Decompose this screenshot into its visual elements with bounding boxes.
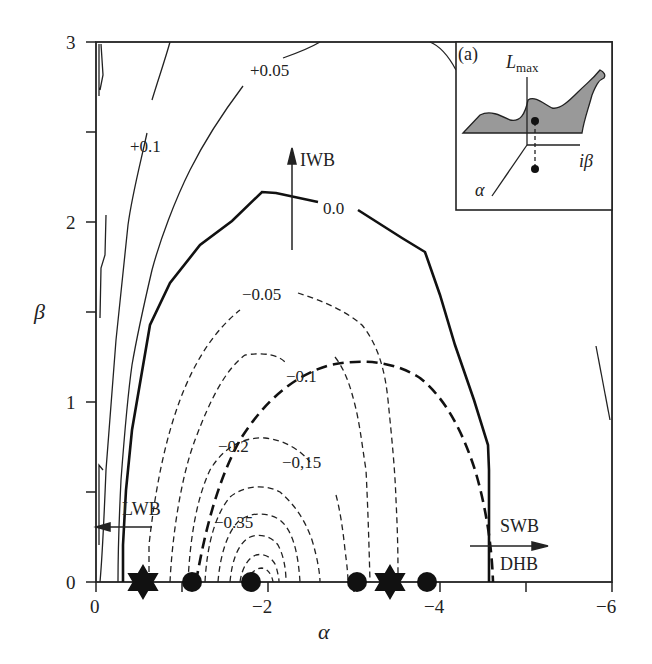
contour-label: −0.05 [242, 285, 281, 304]
contour-label: −0,15 [282, 453, 321, 472]
contour-chart: 0 1 2 3 β 0 −2 −4 −6 α [0, 0, 652, 664]
circle-marker [182, 572, 202, 592]
circle-marker [417, 572, 437, 592]
contour-label: −0.2 [218, 437, 249, 456]
y-tick-label: 0 [66, 572, 76, 593]
inset-panel-label: (a) [458, 44, 478, 65]
swb-arrow [470, 542, 548, 550]
y-axis-title: β [33, 299, 45, 324]
x-axis-title: α [318, 619, 330, 644]
x-tick-label: −4 [424, 596, 445, 617]
contour-plus-0-05-top [283, 42, 320, 58]
x-tick-label: −6 [596, 596, 616, 617]
inset-ibeta-label: iβ [579, 151, 593, 171]
circle-marker [241, 572, 261, 592]
inset-alpha-label: α [475, 180, 485, 200]
lwb-label: LWB [122, 499, 161, 519]
contour-label: −0.35 [214, 513, 253, 532]
contour-zero [123, 192, 489, 582]
y-tick-label: 3 [66, 32, 76, 53]
circle-marker [347, 572, 367, 592]
contour-label: 0.0 [323, 199, 344, 218]
contour-label: +0.05 [250, 61, 289, 80]
contour-minus-0-1 [170, 354, 370, 582]
x-tick-label: 0 [90, 596, 100, 617]
inset-panel: (a) Lmax iβ α [456, 42, 612, 210]
y-axis [86, 42, 96, 582]
y-tick-label: 1 [66, 392, 76, 413]
contour-label: +0.1 [130, 137, 161, 156]
dhb-label: DHB [500, 554, 538, 574]
contour-label: −0.1 [286, 367, 317, 386]
x-tick-label: −2 [252, 596, 272, 617]
iwb-arrow [288, 148, 296, 250]
y-tick-label: 2 [66, 212, 76, 233]
swb-label: SWB [500, 516, 539, 536]
iwb-label: IWB [300, 150, 335, 170]
